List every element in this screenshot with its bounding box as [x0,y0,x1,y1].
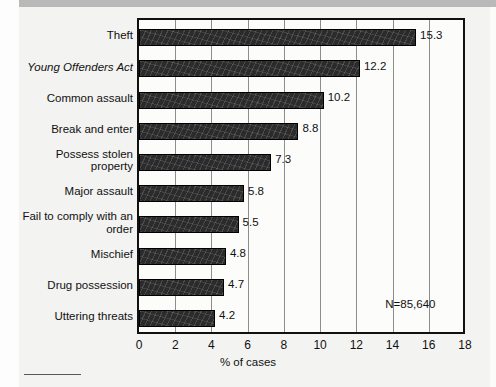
x-tick-label: 4 [199,338,223,352]
x-tick-label: 6 [236,338,260,352]
bar-texture [140,93,323,108]
footer-rule [24,374,81,375]
gridline-16 [429,20,430,332]
category-label: Uttering threats [0,310,133,323]
bar-texture [140,124,297,139]
x-tick-label: 14 [381,338,405,352]
bar [139,279,224,296]
category-label: Young Offenders Act [0,61,133,74]
bar-texture [140,30,415,45]
bar-value-label: 10.2 [328,91,350,103]
bar-texture [140,61,359,76]
gridline-14 [393,20,394,332]
category-label: Drug possession [0,279,133,292]
bar-value-label: 15.3 [420,29,442,41]
category-label: Possess stolen property [15,148,133,173]
bar-texture [140,249,225,264]
category-label: Fail to comply with an order [15,210,133,235]
x-tick-label: 10 [308,338,332,352]
category-label: Major assault [0,185,133,198]
bar-value-label: 12.2 [364,60,386,72]
bar [139,60,360,77]
x-tick-label: 12 [344,338,368,352]
x-tick-label: 18 [453,338,477,352]
bar [139,154,271,171]
bar-value-label: 5.8 [248,185,264,197]
bar-value-label: 8.8 [302,122,318,134]
x-tick-label: 0 [127,338,151,352]
x-tick-label: 8 [272,338,296,352]
sample-size-annotation: N=85,640 [385,298,435,310]
bar [139,248,226,265]
bar [139,92,324,109]
x-axis-title: % of cases [0,356,496,368]
bar-value-label: 4.7 [228,278,244,290]
bar [139,185,244,202]
bar [139,216,239,233]
category-label: Mischief [0,248,133,261]
bar-texture [140,280,223,295]
x-tick-label: 16 [417,338,441,352]
bar-value-label: 5.5 [243,216,259,228]
bar-texture [140,155,270,170]
category-label: Common assault [0,92,133,105]
page-top-band [19,0,496,7]
bar-value-label: 7.3 [275,153,291,165]
x-tick-label: 2 [163,338,187,352]
bar-texture [140,311,214,326]
bar-value-label: 4.2 [219,309,235,321]
bar [139,123,298,140]
page-right-margin [490,0,496,387]
bar-texture [140,217,238,232]
plot-area: N=85,640 [137,18,465,334]
bar-texture [140,186,243,201]
bar [139,29,416,46]
bar [139,310,215,327]
category-label: Theft [0,29,133,42]
bar-value-label: 4.8 [230,247,246,259]
category-label: Break and enter [0,123,133,136]
chart-page: TheftYoung Offenders ActCommon assaultBr… [0,0,496,387]
